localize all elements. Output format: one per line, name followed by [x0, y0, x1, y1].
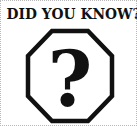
did-you-know-panel: DID YOU KNOW? ? — [0, 0, 137, 126]
panel-title: DID YOU KNOW? — [6, 5, 132, 23]
question-mark-octagon-icon: ? — [25, 28, 115, 124]
question-mark-glyph: ? — [48, 35, 93, 124]
octagon-shape: ? — [25, 28, 115, 124]
